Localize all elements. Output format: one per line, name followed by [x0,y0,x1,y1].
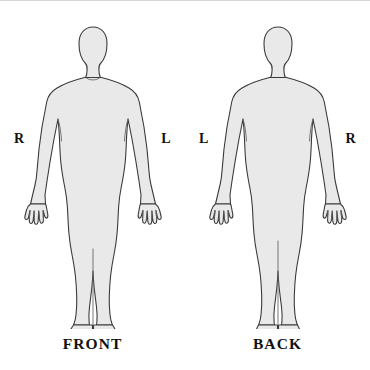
right-foot-shape [93,325,116,329]
left-heel-shape [255,325,277,329]
front-right-side-label: L [161,132,171,146]
back-left-side-label: L [199,132,209,146]
right-hand-shape [323,204,346,224]
back-figure-panel: L R BACK [185,1,370,370]
front-view-caption: FRONT [0,335,185,353]
left-hand-shape [24,204,47,224]
head-shape [264,27,292,79]
left-hand-shape [209,204,232,224]
back-view-caption: BACK [185,335,370,353]
body-diagram-chart: R L FRONT L R [0,0,370,370]
front-left-side-label: R [14,132,25,146]
back-body-outline-icon[interactable] [185,19,370,329]
front-figure-panel: R L FRONT [0,1,185,370]
right-hand-shape [138,204,161,224]
head-shape [79,27,107,79]
right-heel-shape [278,325,300,329]
front-body-outline-icon[interactable] [0,19,185,329]
back-right-side-label: R [345,132,356,146]
left-foot-shape [69,325,92,329]
